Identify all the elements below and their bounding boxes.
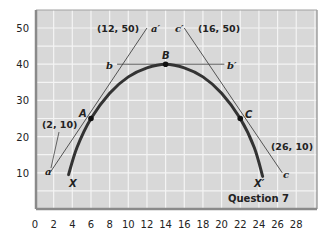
label-a: a bbox=[45, 166, 51, 177]
x-tick-label: 22 bbox=[234, 219, 247, 230]
x-tick-label: 16 bbox=[178, 219, 191, 230]
chart-canvas: 0246810121416182022242628 1020304050 (12… bbox=[0, 0, 332, 234]
label-point-C: C bbox=[245, 109, 253, 120]
y-tick-label: 20 bbox=[16, 132, 29, 143]
label-X: X bbox=[68, 178, 78, 189]
point-marker-B bbox=[163, 61, 169, 67]
annotation-26-10: (26, 10) bbox=[271, 141, 313, 152]
y-tick-label: 40 bbox=[16, 59, 29, 70]
x-tick-label: 4 bbox=[69, 219, 75, 230]
x-tick-label: 12 bbox=[141, 219, 154, 230]
point-marker-A bbox=[88, 116, 94, 122]
x-tick-label: 10 bbox=[122, 219, 135, 230]
x-axis-ticks: 0246810121416182022242628 bbox=[32, 219, 303, 230]
annotation-12-50: (12, 50) bbox=[97, 23, 139, 34]
label-point-B: B bbox=[162, 50, 170, 61]
y-tick-label: 50 bbox=[16, 23, 29, 34]
annotation-2-10: (2, 10) bbox=[42, 119, 77, 130]
label-c-prime: c′ bbox=[175, 23, 184, 34]
y-tick-label: 30 bbox=[16, 95, 29, 106]
label-X-prime: X′ bbox=[253, 178, 265, 189]
x-tick-label: 28 bbox=[290, 219, 303, 230]
point-marker-C bbox=[237, 116, 243, 122]
x-tick-label: 26 bbox=[271, 219, 284, 230]
x-tick-label: 24 bbox=[253, 219, 266, 230]
annotation-16-50: (16, 50) bbox=[198, 23, 240, 34]
x-tick-label: 6 bbox=[88, 219, 94, 230]
x-tick-label: 18 bbox=[197, 219, 210, 230]
y-axis-ticks: 1020304050 bbox=[16, 23, 29, 179]
x-tick-label: 8 bbox=[106, 219, 112, 230]
label-c: c bbox=[283, 169, 289, 180]
label-b: b bbox=[106, 60, 113, 71]
label-a-prime: a′ bbox=[151, 23, 160, 34]
label-point-A: A bbox=[78, 108, 87, 119]
chart-title: Question 7 bbox=[228, 193, 289, 204]
x-tick-label: 14 bbox=[159, 219, 172, 230]
x-tick-label: 2 bbox=[50, 219, 56, 230]
x-tick-label: 20 bbox=[215, 219, 228, 230]
label-b-prime: b′ bbox=[227, 60, 237, 71]
x-tick-label: 0 bbox=[32, 219, 38, 230]
y-tick-label: 10 bbox=[16, 168, 29, 179]
